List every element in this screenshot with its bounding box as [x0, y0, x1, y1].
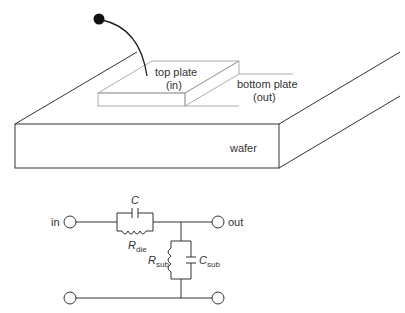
top-plate-label: top plate [155, 66, 197, 78]
c-label: C [131, 194, 139, 206]
terminal-ground-right [212, 292, 224, 304]
terminal-ground-left [64, 292, 76, 304]
plate-front-face [98, 93, 185, 106]
bottom-plate-sub-label: (out) [253, 91, 276, 103]
wafer-bottom-right-edge [279, 96, 400, 168]
bond-wire [94, 14, 148, 77]
rsub-label: Rsub [148, 254, 169, 269]
in-label: in [51, 216, 60, 228]
bond-ball [94, 14, 105, 25]
csub-label: Csub [199, 254, 220, 269]
out-label: out [228, 216, 243, 228]
terminal-in [64, 216, 76, 228]
rdie-label: Rdie [128, 239, 147, 254]
bottom-plate-label: bottom plate [237, 78, 298, 90]
resistor-rdie [117, 231, 153, 234]
wafer-top-left-edge [15, 52, 137, 124]
wafer [15, 52, 400, 168]
terminal-out [212, 216, 224, 228]
capacitor-diagram: wafer top plate (in) bottom plate (out) [0, 0, 405, 313]
top-plate-sub-label: (in) [166, 79, 182, 91]
wafer-label: wafer [229, 142, 257, 154]
